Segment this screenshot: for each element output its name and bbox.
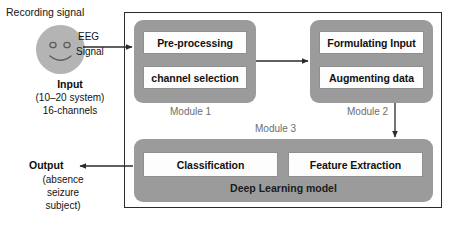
block-channel-selection[interactable]: channel selection [143,66,247,89]
block-classification[interactable]: Classification [143,152,278,177]
recording-signal-label: Recording signal [6,6,84,18]
block-feature-extraction[interactable]: Feature Extraction [288,152,423,177]
eeg-arrow-label-line2: Signal [76,46,104,58]
eeg-arrow-label-line1: EEG [78,31,99,43]
output-title: Output [29,159,63,171]
input-subtitle-system: (10–20 system) [20,92,120,104]
output-subtitle-line1: (absence [27,174,99,186]
block-formulating-input[interactable]: Formulating Input [319,31,424,54]
deep-learning-model-label: Deep Learning model [134,182,433,194]
output-subtitle-line2: seizure [27,187,99,199]
input-subtitle-channels: 16-channels [20,105,120,117]
diagram-canvas: Recording signal EEG Signal Input (10–20… [0,0,453,227]
module-3-caption: Module 3 [255,123,296,134]
block-augmenting-data[interactable]: Augmenting data [319,66,424,89]
input-title: Input [20,78,120,90]
module-2-caption: Module 2 [347,106,388,117]
module-1-caption: Module 1 [170,106,211,117]
output-subtitle-line3: subject) [27,200,99,212]
block-pre-processing[interactable]: Pre-processing [143,31,247,54]
